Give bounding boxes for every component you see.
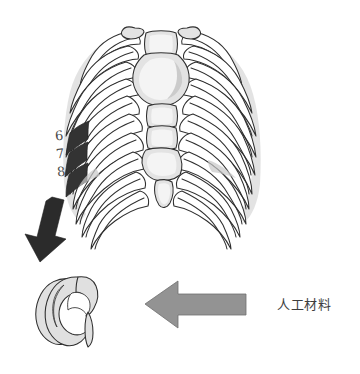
anatomical-figure: 6 7 8 人工材料 [0,0,360,374]
harvest-arrow [25,197,66,262]
arrows-and-graft-layer [0,0,360,374]
material-arrow [145,281,246,328]
costal-cartilage-graft [36,277,98,347]
material-label: 人工材料 [277,294,331,313]
